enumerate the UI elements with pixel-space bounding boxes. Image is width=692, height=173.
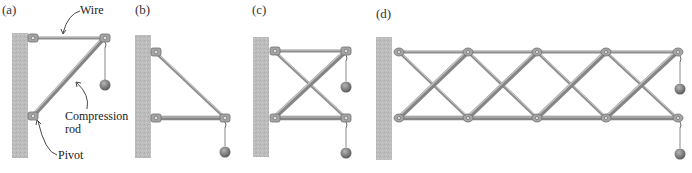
hanging-weight-bottom xyxy=(675,122,686,160)
pivot-top xyxy=(151,48,161,56)
horizontal-rod xyxy=(155,117,225,118)
panel-c: (c) xyxy=(252,2,352,159)
diagonal-member xyxy=(155,51,225,118)
panel-d-label: (d) xyxy=(376,6,391,21)
compression-rod xyxy=(32,37,104,116)
hanging-weight xyxy=(220,122,231,158)
truss-diagram: (a) Wire xyxy=(0,0,692,173)
compression-rod-label-2: rod xyxy=(65,122,81,136)
wall xyxy=(12,33,28,158)
pivot-bottom xyxy=(151,114,161,122)
pivot-arrow xyxy=(38,121,57,155)
compression-rod-label-1: Compression xyxy=(65,109,128,123)
tension-diagonals xyxy=(399,52,677,118)
panel-b-label: (b) xyxy=(135,2,150,17)
pivot-label: Pivot xyxy=(58,148,84,162)
bottom-member xyxy=(274,117,346,118)
wire-label: Wire xyxy=(80,3,104,17)
hanging-weight-top xyxy=(341,55,352,93)
compression-rod-arrow xyxy=(77,83,88,109)
panel-b: (b) xyxy=(135,2,231,158)
panel-a-label: (a) xyxy=(2,2,16,17)
joint-right xyxy=(220,114,230,122)
panel-a: (a) Wire xyxy=(2,2,128,162)
compression-diagonals xyxy=(399,52,677,118)
pivot-bottom xyxy=(28,112,38,120)
wall xyxy=(253,37,269,157)
joint-right xyxy=(100,34,110,42)
hanging-weight xyxy=(100,42,111,91)
wall xyxy=(376,37,392,160)
wire-arrow xyxy=(63,11,80,33)
wire xyxy=(32,37,104,38)
hanging-weight-top xyxy=(675,56,686,95)
hanging-weight-bottom xyxy=(341,122,352,159)
panel-d: (d) xyxy=(376,6,686,160)
pivot-top xyxy=(28,34,38,42)
top-member xyxy=(274,50,346,51)
panel-c-label: (c) xyxy=(252,2,266,17)
wall xyxy=(135,35,151,158)
